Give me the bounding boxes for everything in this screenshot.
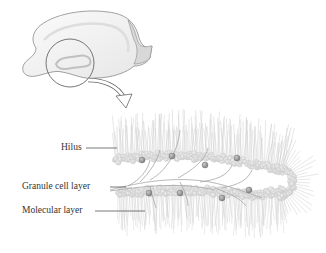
granule-soma [139,157,145,163]
dendrite [265,120,266,163]
dendrite [226,119,228,157]
dendrite [274,194,278,229]
granule-soma [219,195,225,201]
zoom-arrow-icon [88,80,132,108]
dendrite [188,131,189,153]
dendrite [153,120,154,153]
dendrite [121,121,124,155]
granule-soma [234,155,240,161]
dendrite [131,117,132,155]
dendrite [182,126,183,153]
dendrite [186,125,187,153]
dendrite [127,194,130,226]
dendrite [149,120,153,153]
dendrite [188,192,189,228]
brain-hemisphere [23,11,152,78]
dendrite [224,122,227,156]
dendrite [219,122,220,156]
dendrite [139,194,140,222]
molecular-layer-upper [112,109,318,223]
dendrite [159,193,160,227]
dendrite [288,156,314,173]
dendrite [118,195,119,220]
dendrite [259,130,260,162]
dendrite [208,193,210,226]
label-molecular-layer: Molecular layer [22,206,82,216]
dentate-gyrus [110,109,319,238]
dendrite [175,192,176,220]
granule-cell [280,193,285,198]
dendrite [174,192,175,228]
granule-soma [169,153,175,159]
dendrite [169,192,170,218]
dendrite [113,133,116,156]
dendrite [157,118,159,153]
granule-soma [146,190,152,196]
label-granule-cell-layer: Granule cell layer [22,182,90,192]
label-hilus: Hilus [61,143,82,153]
granule-soma [246,187,252,193]
granule-soma [177,190,183,196]
granule-soma [202,162,208,168]
dendrite [244,196,245,237]
dendrite [134,114,136,154]
brain-outline [23,11,152,78]
